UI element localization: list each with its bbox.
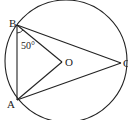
angle-arc — [17, 30, 23, 33]
label-a: A — [7, 98, 15, 110]
label-o: O — [65, 56, 73, 68]
segment-ac — [17, 63, 121, 100]
label-c: C — [123, 57, 128, 69]
label-b: B — [9, 17, 16, 29]
geometry-diagram: B A O C 50° — [0, 0, 128, 120]
segment-ao — [17, 62, 62, 100]
angle-label: 50° — [21, 40, 35, 51]
